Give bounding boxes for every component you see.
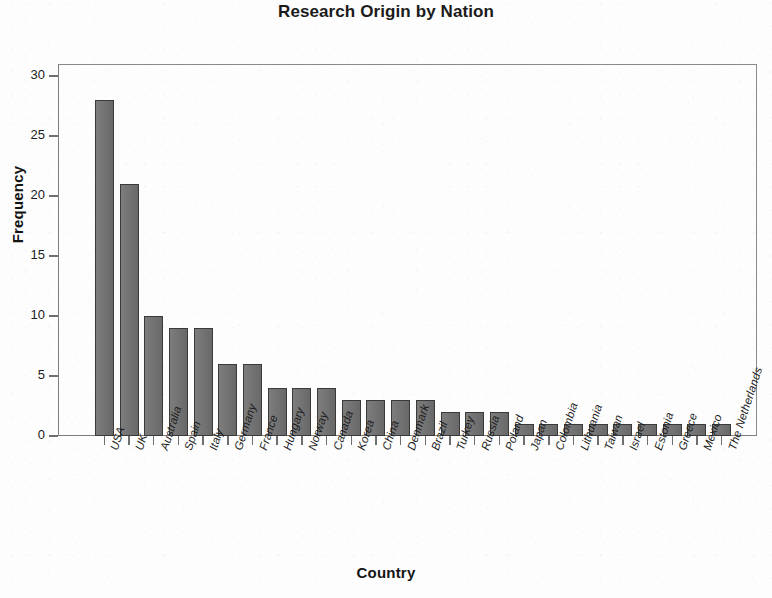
page-title: Research Origin by Nation [0,2,772,22]
y-tick-label: 20 [31,187,45,203]
y-tick-label: 10 [31,307,45,323]
x-tick-mark [252,436,254,445]
y-tick-mark [49,435,58,437]
x-tick-mark [104,436,106,445]
y-tick-label: 30 [31,67,45,83]
x-tick-mark [400,436,402,445]
x-tick-mark [178,436,180,445]
y-tick-mark [49,75,58,77]
y-tick-mark [49,195,58,197]
y-tick-label: 0 [38,427,45,443]
x-tick-mark [227,436,229,445]
y-tick-label: 15 [31,247,45,263]
x-tick-mark [597,436,599,445]
y-axis: Frequency 051015202530 [0,0,58,598]
x-tick-mark [672,436,674,445]
x-tick-mark [523,436,525,445]
x-tick-mark [696,436,698,445]
x-tick-mark [276,436,278,445]
x-tick-mark [202,436,204,445]
x-tick-mark [499,436,501,445]
bar [194,328,213,436]
x-tick-mark [622,436,624,445]
chart-figure: Research Origin by Nation Frequency 0510… [0,0,772,598]
x-tick-mark [326,436,328,445]
bar [144,316,163,436]
x-tick-mark [474,436,476,445]
x-tick-mark [128,436,130,445]
y-tick-mark [49,315,58,317]
x-tick-mark [425,436,427,445]
y-axis-title: Frequency [9,150,26,260]
x-tick-mark [153,436,155,445]
x-tick-label: UK [133,433,149,452]
plot-area [58,64,757,436]
y-tick-label: 5 [38,367,45,383]
bar [218,364,237,436]
x-tick-mark [721,436,723,445]
x-tick-mark [548,436,550,445]
x-tick-mark [375,436,377,445]
x-axis: USAUKAustraliaSpainItalyGermanyFranceHun… [58,436,757,566]
x-tick-mark [573,436,575,445]
x-tick-mark [351,436,353,445]
x-tick-mark [301,436,303,445]
x-axis-title: Country [0,564,772,581]
y-tick-mark [49,375,58,377]
x-tick-mark [647,436,649,445]
y-tick-label: 25 [31,127,45,143]
bar [120,184,139,436]
bar [95,100,114,436]
x-tick-mark [449,436,451,445]
y-tick-mark [49,255,58,257]
y-tick-mark [49,135,58,137]
